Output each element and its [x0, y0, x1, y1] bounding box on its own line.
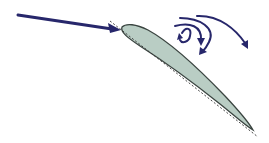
- chord-line: [110, 21, 258, 137]
- diagram-canvas: [0, 0, 269, 143]
- separation-vortex-arrow: [177, 29, 190, 42]
- incoming-flow-arrow: [18, 15, 121, 33]
- airfoil-stall-diagram: [0, 0, 269, 143]
- wake-arrow-3: [197, 16, 248, 49]
